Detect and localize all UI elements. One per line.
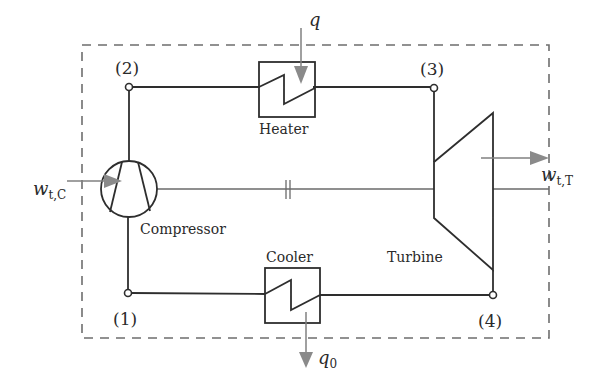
heat-in-symbol: q (309, 9, 321, 30)
turbine: Turbine (387, 113, 493, 270)
compressor-label: Compressor (140, 221, 226, 237)
node-1 (125, 290, 132, 297)
turbine-label: Turbine (387, 249, 443, 265)
turbine-work-symbol: wt,T (541, 164, 573, 188)
pipe-cooler-1 (131, 293, 265, 294)
compressor: Compressor (101, 161, 226, 237)
cooler: Cooler (265, 249, 320, 323)
arrow-down-icon (299, 352, 313, 368)
turbine-work-arrow: wt,T (481, 151, 573, 188)
state-nodes: (2) (3) (1) (4) (113, 58, 502, 331)
node-3 (431, 85, 438, 92)
node-3-label: (3) (420, 59, 444, 79)
node-1-label: (1) (113, 309, 137, 329)
compressor-work-arrow: wt,C (33, 174, 122, 202)
node-2 (126, 84, 133, 91)
heat-out-symbol: q0 (318, 347, 337, 371)
heater-label: Heater (259, 121, 309, 137)
shaft (157, 180, 549, 199)
heat-output-arrow: q0 (299, 312, 337, 371)
cooler-label: Cooler (266, 249, 313, 265)
heater: Heater (259, 62, 315, 137)
compressor-work-symbol: wt,C (33, 178, 66, 202)
node-4-label: (4) (478, 311, 502, 331)
node-2-label: (2) (115, 58, 139, 78)
arrow-down-icon (294, 66, 308, 84)
node-4 (490, 292, 497, 299)
cycle-diagram: Compressor Heater Cooler Turbine (2) (3)… (0, 0, 611, 391)
arrow-right-icon (530, 151, 549, 165)
heat-input-arrow: q (294, 9, 321, 84)
